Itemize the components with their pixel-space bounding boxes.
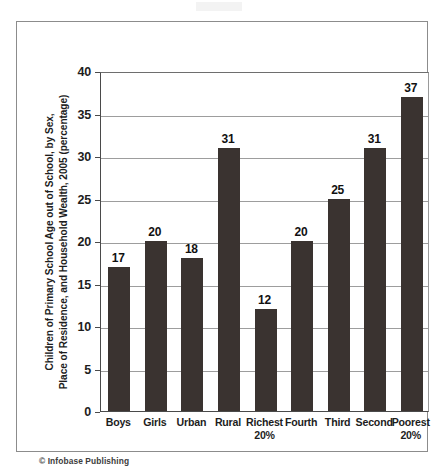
x-axis-tick-label: Boys bbox=[106, 416, 131, 429]
bar[interactable] bbox=[291, 241, 313, 411]
bar-value-label: 20 bbox=[295, 225, 308, 239]
plot-area bbox=[100, 72, 429, 412]
x-axis-tick-label-line: Girls bbox=[143, 416, 166, 429]
x-axis-tick-label-line: Third bbox=[325, 416, 350, 429]
figure-frame: Children of Primary School Age out of Sc… bbox=[16, 21, 428, 452]
bar-value-label: 20 bbox=[148, 225, 161, 239]
x-axis-tick-label: Rural bbox=[215, 416, 241, 429]
bar-value-label: 12 bbox=[258, 293, 271, 307]
x-axis-tick-label-line: Urban bbox=[177, 416, 207, 429]
x-axis-tick-label-line: Boys bbox=[106, 416, 131, 429]
x-axis-tick-label: Poorest20% bbox=[392, 416, 430, 442]
bar-value-label: 17 bbox=[112, 251, 125, 265]
bar-value-label: 37 bbox=[404, 81, 417, 95]
bar[interactable] bbox=[218, 148, 240, 412]
bar[interactable] bbox=[181, 258, 203, 411]
x-axis-tick-label-line: 20% bbox=[392, 429, 430, 442]
y-axis-tick-label: 20 bbox=[65, 235, 91, 249]
x-axis-tick-label-line: Second bbox=[356, 416, 393, 429]
x-axis-tick-label-line: 20% bbox=[246, 429, 283, 442]
x-axis-tick-label: Second bbox=[356, 416, 393, 429]
y-axis-tick-label: 40 bbox=[65, 65, 91, 79]
y-axis-tick-label: 10 bbox=[65, 320, 91, 334]
y-axis-tick-label: 30 bbox=[65, 150, 91, 164]
y-axis-title-line-1: Children of Primary School Age out of Sc… bbox=[43, 113, 57, 370]
x-axis-tick-label: Third bbox=[325, 416, 350, 429]
x-axis-tick-label-line: Richest bbox=[246, 416, 283, 429]
copyright-notice: © Infobase Publishing bbox=[39, 456, 129, 466]
x-axis-tick-label: Fourth bbox=[285, 416, 317, 429]
gridline bbox=[101, 116, 428, 117]
bar-value-label: 31 bbox=[221, 132, 234, 146]
y-axis-tick-label: 35 bbox=[65, 108, 91, 122]
bar[interactable] bbox=[401, 97, 423, 412]
bar[interactable] bbox=[145, 241, 167, 411]
bar[interactable] bbox=[364, 148, 386, 412]
x-axis-tick-label: Urban bbox=[177, 416, 207, 429]
scan-artifact bbox=[196, 2, 242, 11]
bar[interactable] bbox=[255, 309, 277, 411]
y-axis-tick-label: 5 bbox=[65, 363, 91, 377]
x-axis-tick-label-line: Fourth bbox=[285, 416, 317, 429]
y-axis-tick-mark bbox=[95, 412, 100, 413]
bar-value-label: 25 bbox=[331, 183, 344, 197]
bar[interactable] bbox=[328, 199, 350, 412]
y-axis-tick-label: 0 bbox=[65, 405, 91, 419]
x-axis-tick-label-line: Poorest bbox=[392, 416, 430, 429]
y-axis-tick-label: 15 bbox=[65, 278, 91, 292]
x-axis-tick-label: Richest20% bbox=[246, 416, 283, 442]
bar-value-label: 18 bbox=[185, 242, 198, 256]
bar-value-label: 31 bbox=[368, 132, 381, 146]
y-axis-tick-label: 25 bbox=[65, 193, 91, 207]
bar[interactable] bbox=[108, 267, 130, 412]
x-axis-tick-label: Girls bbox=[143, 416, 166, 429]
x-axis-tick-label-line: Rural bbox=[215, 416, 241, 429]
